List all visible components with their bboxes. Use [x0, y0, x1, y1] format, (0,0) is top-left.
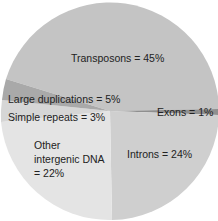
label-simple-repeats: Simple repeats = 3%	[8, 111, 105, 123]
label-other-line3: = 22%	[34, 167, 64, 179]
label-other-line2: intergenic DNA	[34, 153, 105, 165]
slice-introns	[110, 111, 218, 220]
label-transposons: Transposons = 45%	[71, 52, 164, 64]
label-large-duplications: Large duplications = 5%	[8, 93, 120, 105]
label-introns: Introns = 24%	[127, 148, 192, 160]
label-exons: Exons = 1%	[157, 106, 213, 118]
label-other-line1: Other	[34, 139, 60, 151]
slice-other-intergenic	[1, 111, 112, 220]
